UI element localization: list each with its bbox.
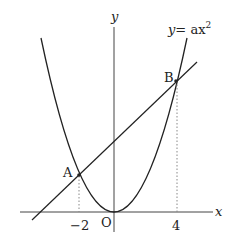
- y-axis-label: y: [110, 9, 119, 24]
- point-b: [174, 79, 178, 83]
- point-a: [77, 173, 81, 177]
- point-b-label: B: [164, 70, 174, 85]
- origin-label: O: [101, 215, 112, 230]
- x-axis-label: x: [215, 204, 223, 219]
- curve-label: y= ax2: [167, 20, 211, 37]
- point-a-label: A: [62, 165, 73, 180]
- tick-4: 4: [172, 218, 180, 233]
- tick-neg2: −2: [70, 218, 89, 233]
- diagram-canvas: y x O A B −2 4 y= ax2: [0, 0, 236, 244]
